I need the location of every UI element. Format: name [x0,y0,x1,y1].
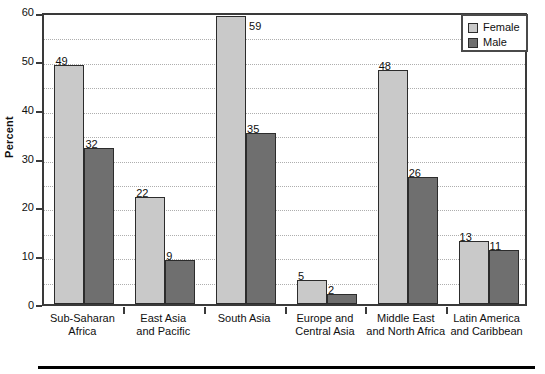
x-axis-group-label-line: Africa [42,325,123,338]
gridline [44,113,525,114]
gridline [44,186,525,187]
x-axis-group-label: Latin Americaand Caribbean [446,312,527,338]
bar-value-label: 9 [166,251,172,262]
plot-area: 493222959355248261311 [42,13,527,306]
bar-value-label: 26 [409,168,421,179]
x-axis-group-label: Middle Eastand North Africa [365,312,446,338]
x-axis-group-label-line: and Caribbean [446,325,527,338]
x-axis-group-label: South Asia [204,312,285,325]
bar-female [135,197,165,304]
gridline [44,39,525,40]
gridline [44,64,525,65]
bar-value-label: 11 [490,241,501,252]
x-axis-group-label-line: Latin America [446,312,527,325]
x-axis-group-label-line: South Asia [204,312,285,325]
y-axis-tick-label: 40 [0,105,34,116]
y-axis-tick-label: 10 [0,251,34,262]
legend: Female Male [461,14,528,52]
x-axis-group-label-line: Central Asia [285,325,366,338]
x-axis-group-label-line: East Asia [123,312,204,325]
bar-value-label: 32 [85,139,97,150]
legend-label-female: Female [483,22,520,33]
gridline [44,137,525,138]
x-axis-group-label-line: and North Africa [365,325,446,338]
bar-male [408,177,438,304]
y-axis-tick-label: 0 [0,300,34,311]
bar-chart: Percent 0102030405060 493222959355248261… [0,0,545,374]
bar-value-label: 48 [379,61,391,72]
x-axis-group-label-line: and Pacific [123,325,204,338]
gridline [44,162,525,163]
gridline [44,259,525,260]
x-axis-group-label-line: Sub-Saharan [42,312,123,325]
bar-value-label: 5 [298,271,304,282]
bar-male [84,148,114,304]
bar-female [378,70,408,304]
x-axis-group-label-line: Middle East [365,312,446,325]
legend-swatch-male-icon [468,38,478,48]
legend-swatch-female-icon [468,23,478,33]
gridline [44,88,525,89]
gridline [44,210,525,211]
bar-value-label: 35 [247,124,259,135]
x-axis-group-label: Europe andCentral Asia [285,312,366,338]
y-axis-tick-label: 50 [0,56,34,67]
bar-value-label: 49 [55,56,67,67]
bar-value-label: 2 [328,285,334,296]
gridline [44,284,525,285]
legend-item-male: Male [468,35,522,50]
bar-value-label: 22 [136,188,148,199]
x-axis-group-label: East Asiaand Pacific [123,312,204,338]
bar-value-label: 13 [460,232,472,243]
gridline [44,235,525,236]
x-axis-group-label: Sub-SaharanAfrica [42,312,123,338]
bar-female [297,280,327,304]
legend-label-male: Male [483,37,507,48]
bottom-rule [38,366,535,369]
bar-male [165,260,195,304]
legend-item-female: Female [468,20,522,35]
x-axis-group-label-line: Europe and [285,312,366,325]
y-axis-tick-label: 20 [0,202,34,213]
bar-female [459,241,489,304]
y-axis-tick-label: 30 [0,154,34,165]
y-axis-tick-label: 60 [0,7,34,18]
bar-female [54,65,84,304]
bar-female [216,16,246,304]
bar-value-label: 59 [249,21,261,32]
bar-male [246,133,276,304]
bar-male [489,250,519,304]
